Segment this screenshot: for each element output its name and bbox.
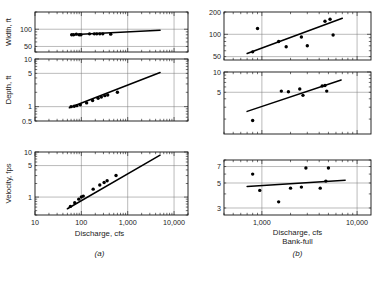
ytick-label: 1 — [28, 102, 32, 111]
xtick-label-a: 10 — [31, 218, 39, 227]
fit-line-a-depth — [69, 73, 160, 108]
ytick-label: 0.5 — [22, 117, 32, 126]
ytick-label: 5 — [217, 88, 221, 97]
ytick-label: 10 — [24, 148, 32, 157]
data-point — [301, 94, 304, 97]
panel-a-label: (a) — [95, 249, 105, 258]
xtick-label-b: 1,000 — [253, 218, 271, 227]
xaxis-label-b: Discharge, cfs — [273, 228, 322, 237]
data-point — [82, 194, 85, 197]
ytick-label: 50 — [213, 52, 221, 61]
panel-frame-a-depth — [35, 59, 188, 121]
data-point — [323, 84, 326, 87]
data-point — [116, 91, 119, 94]
data-point — [85, 101, 88, 104]
data-point — [91, 99, 94, 102]
xaxis-label-b-line2: Bank-full — [282, 237, 313, 246]
data-point — [251, 172, 254, 175]
data-point — [328, 17, 331, 20]
ytick-label: 100 — [20, 25, 32, 34]
data-point — [284, 45, 287, 48]
data-point — [277, 200, 280, 203]
data-point — [304, 166, 307, 169]
data-point — [280, 89, 283, 92]
data-point — [331, 33, 334, 36]
data-point — [105, 179, 108, 182]
ytick-label: 5 — [28, 161, 32, 170]
fit-line-a-width — [71, 30, 160, 35]
plot-svg: 1005010510.5105120010050105753101001,000… — [0, 0, 380, 282]
data-point — [79, 33, 82, 36]
xtick-label-a: 1,000 — [119, 218, 137, 227]
data-point — [114, 174, 117, 177]
data-point — [91, 187, 94, 190]
data-point — [319, 186, 322, 189]
ytick-label: 7 — [217, 162, 221, 171]
panel-frame-b-depth — [224, 72, 371, 134]
xtick-label-a: 100 — [75, 218, 87, 227]
hydraulic-geometry-figure: 1005010510.5105120010050105753101001,000… — [0, 0, 380, 282]
data-point — [258, 189, 261, 192]
data-point — [251, 50, 254, 53]
data-point — [75, 104, 78, 107]
data-point — [98, 183, 101, 186]
data-point — [73, 201, 76, 204]
data-point — [106, 93, 109, 96]
data-point — [300, 185, 303, 188]
data-point — [325, 89, 328, 92]
ytick-label: 1 — [28, 193, 32, 202]
data-point — [75, 32, 78, 35]
yaxis-title-a-depth: Depth, ft — [4, 75, 13, 105]
ytick-label: 10 — [24, 55, 32, 64]
data-point — [298, 87, 301, 90]
ytick-label: 5 — [28, 69, 32, 78]
panel-frame-b-velocity — [224, 160, 371, 215]
data-point — [103, 94, 106, 97]
data-point — [323, 20, 326, 23]
data-point — [79, 103, 82, 106]
ytick-label: 100 — [209, 30, 221, 39]
data-point — [324, 179, 327, 182]
data-point — [88, 32, 91, 35]
ytick-label: 50 — [24, 42, 32, 51]
data-point — [277, 40, 280, 43]
xaxis-label-a: Discharge, cfs — [75, 229, 124, 238]
ytick-label: 5 — [217, 179, 221, 188]
xtick-label-a: 10,000 — [163, 218, 185, 227]
data-point — [69, 205, 72, 208]
data-point — [256, 27, 259, 30]
fit-line-b-depth — [247, 80, 341, 111]
ytick-label: 3 — [217, 204, 221, 213]
data-point — [287, 90, 290, 93]
data-point — [100, 95, 103, 98]
data-point — [96, 97, 99, 100]
panel-b-label: (b) — [293, 249, 303, 258]
data-point — [95, 32, 98, 35]
fit-line-b-width — [247, 18, 342, 53]
data-point — [327, 166, 330, 169]
data-point — [101, 32, 104, 35]
ytick-label: 200 — [209, 8, 221, 17]
data-point — [69, 105, 72, 108]
yaxis-title-a-velocity: Velocity, fps — [4, 163, 13, 203]
yaxis-title-a-width: Width, ft — [4, 17, 13, 46]
data-point — [300, 35, 303, 38]
data-point — [102, 181, 105, 184]
data-point — [289, 186, 292, 189]
data-point — [306, 44, 309, 47]
data-point — [251, 119, 254, 122]
xtick-label-b: 10,000 — [346, 218, 368, 227]
data-point — [109, 32, 112, 35]
panel-frame-b-width — [224, 12, 371, 60]
data-point — [98, 32, 101, 35]
ytick-label: 10 — [213, 68, 221, 77]
